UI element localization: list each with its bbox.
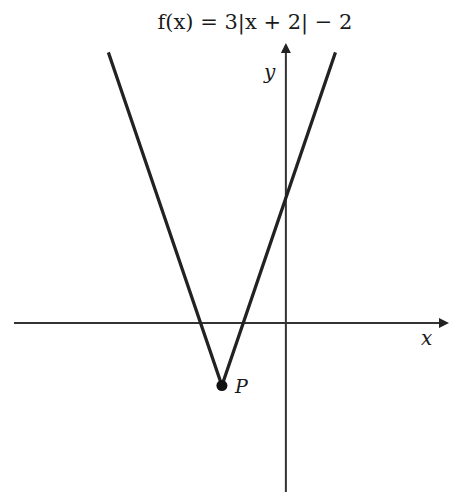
x-axis-label: x <box>421 326 432 350</box>
vertex-point <box>216 380 227 391</box>
chart-title: f(x) = 3|x + 2| − 2 <box>158 10 353 35</box>
vertex-label: P <box>234 375 249 397</box>
y-axis-label: y <box>263 60 276 84</box>
function-graph: f(x) = 3|x + 2| − 2 x y P <box>0 0 464 502</box>
series-line-f <box>108 52 335 385</box>
